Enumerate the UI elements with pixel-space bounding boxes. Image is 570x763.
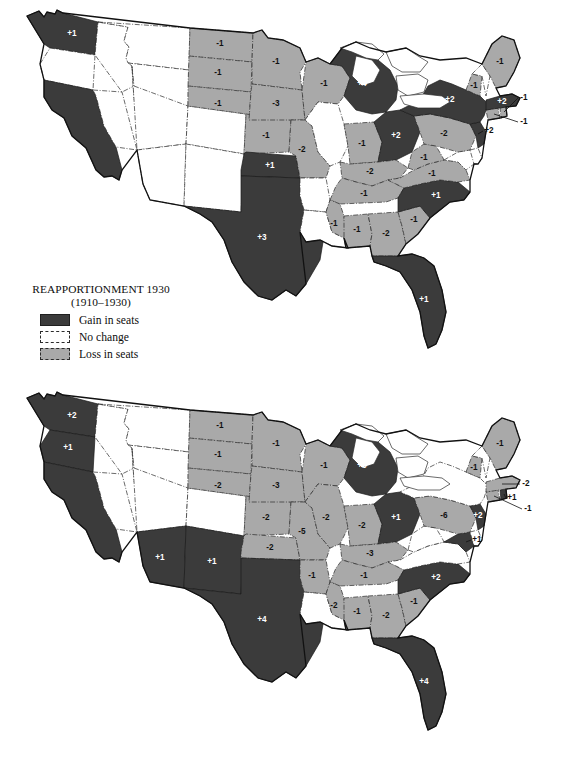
legend-swatch-no-change-icon bbox=[40, 331, 70, 343]
state-nm[interactable] bbox=[184, 144, 244, 212]
state-value-ne: -1 bbox=[214, 99, 222, 108]
state-value-al: -1 bbox=[353, 225, 361, 234]
state-value-il: -2 bbox=[322, 513, 330, 522]
state-value-tn: -1 bbox=[360, 571, 368, 580]
state-value-fl: +1 bbox=[419, 295, 429, 304]
state-value-in: -2 bbox=[358, 521, 366, 530]
state-value-in: -1 bbox=[358, 139, 366, 148]
state-value-ok: +1 bbox=[265, 161, 275, 170]
state-value-ks: -2 bbox=[262, 513, 270, 522]
state-value-me: -1 bbox=[496, 57, 504, 66]
figure-page: +1+9-1-1-1-1+1+3-1-3-2-1+4-1+2-2-1-1-1-2… bbox=[0, 0, 570, 763]
legend-title-line2: (1910–1930) bbox=[26, 296, 176, 309]
state-value-wi: -1 bbox=[320, 79, 328, 88]
state-value-mo: -5 bbox=[298, 527, 306, 536]
legend-label-no-change: No change bbox=[79, 331, 129, 344]
state-value-ga: -2 bbox=[382, 611, 390, 620]
legend-row-gain: Gain in seats bbox=[40, 312, 176, 328]
lake-4 bbox=[396, 456, 428, 478]
state-value-ca: +19 bbox=[48, 504, 62, 513]
legend-row-loss: Loss in seats bbox=[40, 346, 176, 362]
state-value-va: -1 bbox=[428, 169, 436, 178]
state-value-al: -1 bbox=[353, 607, 361, 616]
legend-swatch-loss-icon bbox=[40, 348, 70, 360]
state-value-nd: -1 bbox=[216, 421, 224, 430]
state-value-nj: +2 bbox=[484, 126, 494, 135]
state-value-ct: -1 bbox=[524, 504, 532, 513]
state-value-nd: -1 bbox=[216, 39, 224, 48]
state-value-pa: -2 bbox=[440, 129, 448, 138]
state-value-ri: -1 bbox=[520, 93, 528, 102]
state-value-me: -1 bbox=[496, 439, 504, 448]
state-value-ca: +9 bbox=[50, 122, 60, 131]
state-value-ny: +2 bbox=[445, 95, 455, 104]
state-value-mo: -2 bbox=[298, 145, 306, 154]
legend-swatch-gain-icon bbox=[40, 314, 70, 326]
state-value-tx: +3 bbox=[257, 233, 267, 242]
state-value-ok: -2 bbox=[266, 543, 274, 552]
state-value-ma: +2 bbox=[497, 97, 507, 106]
state-value-sd: -1 bbox=[214, 450, 222, 459]
state-value-fl: +4 bbox=[419, 677, 429, 686]
state-value-tn: -1 bbox=[360, 189, 368, 198]
map-panel-1930: +1+9-1-1-1-1+1+3-1-3-2-1+4-1+2-2-1-1-1-2… bbox=[0, 0, 570, 381]
state-value-nj: +2 bbox=[473, 511, 483, 520]
state-value-az: +1 bbox=[155, 553, 165, 562]
state-value-vt: -1 bbox=[470, 463, 478, 472]
state-value-vt: -1 bbox=[470, 81, 478, 90]
state-value-ms: -2 bbox=[330, 601, 338, 610]
state-value-ms: -1 bbox=[330, 219, 338, 228]
state-value-sc: -1 bbox=[410, 215, 418, 224]
state-value-tx: +4 bbox=[257, 615, 267, 624]
state-value-or: +1 bbox=[63, 443, 73, 452]
map-panel-1950: +2+1+19+1+1-1-1-2-2-2+4-1-3-5-1-1-2+5-2+… bbox=[0, 382, 570, 763]
state-value-ky: -2 bbox=[366, 167, 374, 176]
state-value-sd: -1 bbox=[214, 68, 222, 77]
state-ar[interactable] bbox=[300, 178, 330, 212]
state-value-ky: -3 bbox=[366, 549, 374, 558]
state-value-wi: -1 bbox=[320, 461, 328, 470]
us-map-1950: +2+1+19+1+1-1-1-2-2-2+4-1-3-5-1-1-2+5-2+… bbox=[0, 382, 570, 763]
state-value-ma: -2 bbox=[522, 479, 530, 488]
state-value-ar: -1 bbox=[308, 571, 316, 580]
legend-row-no-change: No change bbox=[40, 329, 176, 345]
state-value-mi: +4 bbox=[357, 79, 367, 88]
state-value-ia: -3 bbox=[272, 99, 280, 108]
state-value-ct: -1 bbox=[520, 117, 528, 126]
lake-3 bbox=[386, 48, 428, 72]
state-value-ia: -3 bbox=[272, 481, 280, 490]
legend-1930: REAPPORTIONMENT 1930 (1910–1930) Gain in… bbox=[26, 283, 176, 363]
state-value-nm: +1 bbox=[207, 557, 217, 566]
state-value-wv: -1 bbox=[420, 153, 428, 162]
legend-rows-1930: Gain in seats No change Loss in seats bbox=[40, 312, 176, 362]
lake-3 bbox=[386, 430, 428, 454]
state-value-oh: +2 bbox=[391, 131, 401, 140]
state-value-md: +1 bbox=[472, 535, 482, 544]
state-value-pa: -6 bbox=[440, 511, 448, 520]
legend-title-1930: REAPPORTIONMENT 1930 (1910–1930) bbox=[26, 283, 176, 308]
state-value-oh: +1 bbox=[391, 513, 401, 522]
state-value-nc: +1 bbox=[431, 191, 441, 200]
state-value-mi: +5 bbox=[357, 461, 367, 470]
legend-label-gain: Gain in seats bbox=[79, 314, 139, 327]
state-value-wa: +2 bbox=[67, 411, 77, 420]
state-value-ri: +1 bbox=[507, 493, 517, 502]
state-value-ne: -2 bbox=[214, 481, 222, 490]
state-value-ga: -2 bbox=[382, 229, 390, 238]
state-az[interactable] bbox=[137, 144, 186, 206]
state-value-sc: -1 bbox=[410, 597, 418, 606]
state-value-mn: -1 bbox=[272, 439, 280, 448]
legend-label-loss: Loss in seats bbox=[79, 348, 138, 361]
state-value-mn: -1 bbox=[272, 57, 280, 66]
state-value-nc: +2 bbox=[431, 573, 441, 582]
lake-4 bbox=[396, 74, 428, 96]
legend-title-line1: REAPPORTIONMENT 1930 bbox=[32, 283, 170, 295]
state-value-wa: +1 bbox=[67, 29, 77, 38]
state-value-ks: -1 bbox=[262, 131, 270, 140]
